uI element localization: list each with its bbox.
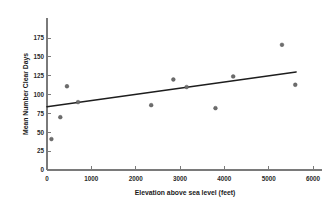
data-point: [231, 75, 235, 79]
y-axis-title: Mean Number Clear Days: [22, 53, 30, 135]
y-tick-label: 25: [37, 147, 45, 154]
data-point: [171, 78, 175, 82]
y-tick-label: 0: [40, 166, 44, 173]
x-tick-label: 2000: [129, 175, 144, 182]
data-point: [65, 84, 69, 88]
data-point: [280, 43, 284, 47]
regression-trend-line: [47, 72, 296, 107]
data-point: [58, 115, 62, 119]
data-point: [185, 85, 189, 89]
y-tick-label: 175: [33, 34, 44, 41]
x-tick-label: 4000: [217, 175, 232, 182]
regression-line-group: [47, 72, 296, 107]
data-point: [293, 83, 297, 87]
data-point: [214, 106, 218, 110]
scatter-plot-figure: 0255075100125150175 01000200030004000500…: [0, 0, 333, 201]
x-tick-label: 3000: [173, 175, 188, 182]
x-tick-label: 1000: [84, 175, 99, 182]
data-point: [50, 137, 54, 141]
y-axis-tick-group: 0255075100125150175: [33, 34, 51, 173]
y-tick-label: 50: [37, 129, 45, 136]
y-tick-label: 75: [37, 110, 45, 117]
x-tick-label: 6000: [306, 175, 321, 182]
x-axis-tick-group: 0100020003000400050006000: [45, 166, 320, 182]
data-point-group: [50, 43, 298, 141]
x-tick-label: 5000: [262, 175, 277, 182]
data-point: [149, 103, 153, 107]
y-tick-label: 125: [33, 72, 44, 79]
x-tick-label: 0: [45, 175, 49, 182]
y-tick-label: 150: [33, 53, 44, 60]
data-point: [76, 100, 80, 104]
x-axis-title: Elevation above sea level (feet): [135, 189, 236, 197]
plot-canvas: 0255075100125150175 01000200030004000500…: [0, 0, 333, 201]
y-tick-label: 100: [33, 91, 44, 98]
